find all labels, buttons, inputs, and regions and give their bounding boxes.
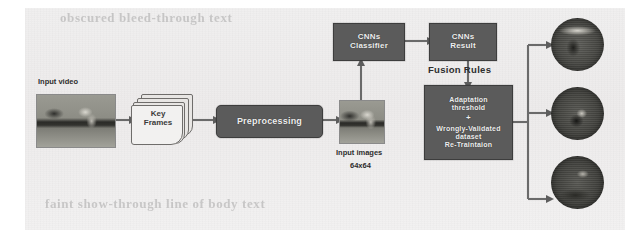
input-video-thumbnail <box>36 94 116 148</box>
key-frames-node[interactable]: Key Frames <box>131 94 193 146</box>
ghost-text-bottom: faint show-through line of body text <box>45 197 405 212</box>
cnns-classifier-line1: CNNs <box>358 32 381 41</box>
cnns-classifier-node[interactable]: CNNs Classifier <box>333 23 405 61</box>
key-frames-label-line1: Key <box>151 109 166 118</box>
cnns-result-node[interactable]: CNNs Result <box>429 23 497 61</box>
preprocessing-node[interactable]: Preprocessing <box>216 105 323 138</box>
input-images-thumbnail <box>339 100 385 144</box>
input-video-label: Input video <box>38 77 78 86</box>
cnns-classifier-line2: Classifier <box>350 41 388 50</box>
output-result-image-1 <box>551 18 604 71</box>
output-result-image-2 <box>551 87 604 140</box>
input-images-size-label: 64x64 <box>350 161 371 170</box>
adaptation-line2: threshold <box>436 104 500 112</box>
input-images-label: Input images <box>336 148 382 157</box>
fusion-rules-label: Fusion Rules <box>428 64 491 75</box>
key-frames-label-line2: Frames <box>144 118 172 127</box>
figure-canvas: obscured bleed-through text faint show-t… <box>0 0 643 242</box>
adaptation-retraining-node[interactable]: Adaptation threshold + Wrongly-Validated… <box>424 85 513 160</box>
adaptation-separator: + <box>436 114 500 123</box>
cnns-result-line1: CNNs <box>452 32 475 41</box>
adaptation-line3: Wrongly-Validated <box>436 125 500 133</box>
key-frames-label: Key Frames <box>133 110 183 128</box>
preprocessing-label: Preprocessing <box>237 116 302 126</box>
adaptation-line4: dataset <box>436 133 500 141</box>
adaptation-line5: Re-Traintaion <box>436 141 500 149</box>
cnns-result-line2: Result <box>450 41 476 50</box>
output-result-image-3 <box>551 156 604 209</box>
